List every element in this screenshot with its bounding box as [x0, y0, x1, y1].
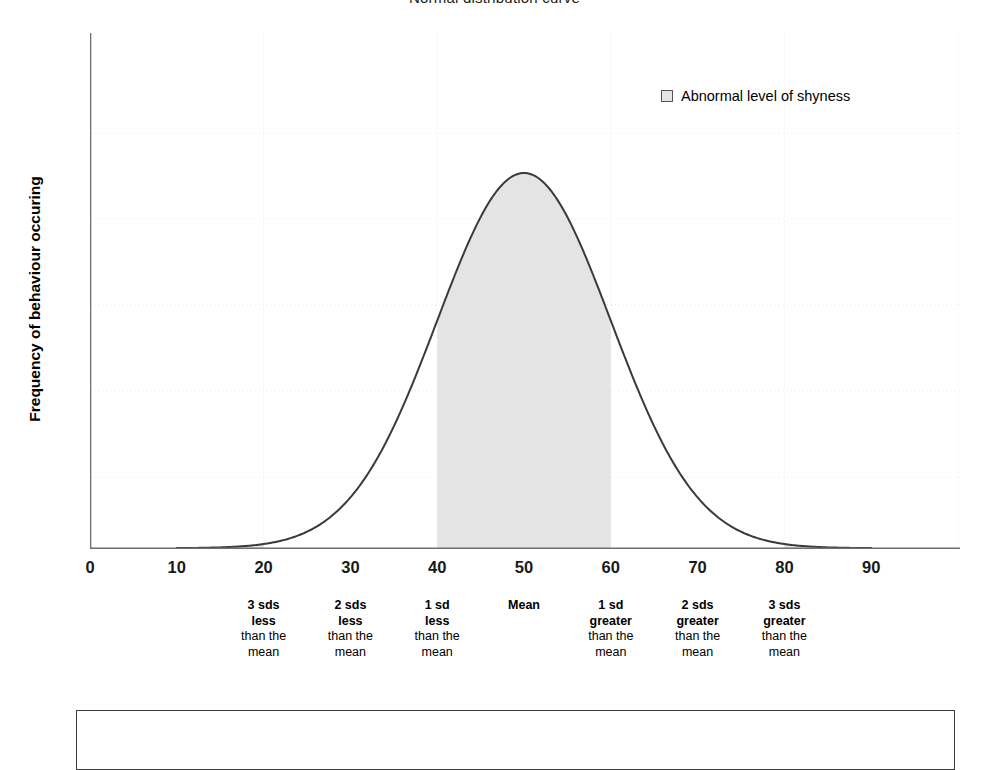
chart-legend: Abnormal level of shyness [661, 88, 850, 104]
x-tick-label: 30 [320, 558, 380, 577]
annotation-line: greater [732, 614, 836, 630]
x-tick-label: 20 [234, 558, 294, 577]
annotation-line: than the [385, 629, 489, 645]
shaded-region-central-band [437, 33, 611, 548]
axis-annotation: 3 sdsgreaterthan themean [732, 598, 836, 660]
plot-area [90, 33, 960, 549]
chart-title: Normal distribution curve [0, 0, 989, 6]
legend-label: Abnormal level of shyness [681, 88, 850, 104]
annotation-line: mean [385, 645, 489, 661]
x-tick-label: 90 [841, 558, 901, 577]
x-tick-label: 40 [407, 558, 467, 577]
annotation-line: than the [732, 629, 836, 645]
y-axis-title: Frequency of behaviour occuring [26, 89, 44, 509]
normal-distribution-plot [90, 33, 960, 549]
x-tick-label: 70 [668, 558, 728, 577]
legend-swatch-icon [661, 90, 673, 102]
bottom-caption-box [76, 710, 955, 770]
shaded-region-left-tail [177, 33, 264, 548]
annotation-line: mean [732, 645, 836, 661]
x-tick-label: 0 [60, 558, 120, 577]
annotation-line: 3 sds [732, 598, 836, 614]
x-tick-label: 60 [581, 558, 641, 577]
x-tick-label: 80 [754, 558, 814, 577]
shaded-region-right-tail [784, 33, 871, 548]
annotation-line: less [385, 614, 489, 630]
shaded-regions [177, 33, 871, 548]
x-tick-label: 50 [494, 558, 554, 577]
x-tick-label: 10 [147, 558, 207, 577]
